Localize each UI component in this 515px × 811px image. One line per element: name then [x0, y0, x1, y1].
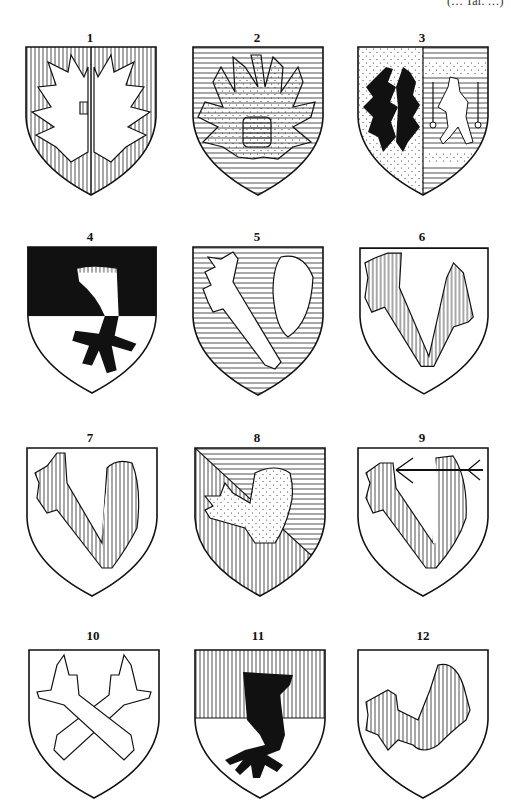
- shield-number-6: 6: [402, 229, 442, 245]
- shield-number-2: 2: [237, 30, 277, 46]
- shield-1-paly-wings: [26, 47, 156, 197]
- shield-5-barry-leg-wing: [193, 247, 323, 397]
- shield-number-9: 9: [402, 430, 442, 446]
- shield-12-leg-wing-feathered: [358, 650, 488, 800]
- shield-2-barry-eagle: [193, 47, 323, 197]
- shield-3-per-pale-wings-lion: [358, 47, 488, 197]
- shield-11-per-fess-leg-sable: [195, 650, 325, 800]
- shield-number-12: 12: [403, 628, 443, 644]
- shield-7-leg-paly-wing: [27, 448, 157, 598]
- shield-6-leg-wing-paly: [360, 247, 488, 397]
- shield-8-per-bend-leg-wing: [195, 448, 325, 598]
- shield-4-per-fess-leg: [27, 247, 157, 395]
- shield-number-4: 4: [70, 229, 110, 245]
- reference-note: (… Taf. …): [447, 0, 504, 9]
- shield-number-11: 11: [238, 628, 278, 644]
- shield-number-10: 10: [73, 628, 113, 644]
- shield-9-leg-wing-arrow: [358, 448, 488, 598]
- shield-number-3: 3: [402, 30, 442, 46]
- shield-number-5: 5: [237, 229, 277, 245]
- talon-icon: [72, 316, 136, 373]
- shield-10-legs-in-saltire: [29, 650, 159, 800]
- shield-number-8: 8: [237, 430, 277, 446]
- shield-number-1: 1: [70, 30, 110, 46]
- shield-number-7: 7: [70, 430, 110, 446]
